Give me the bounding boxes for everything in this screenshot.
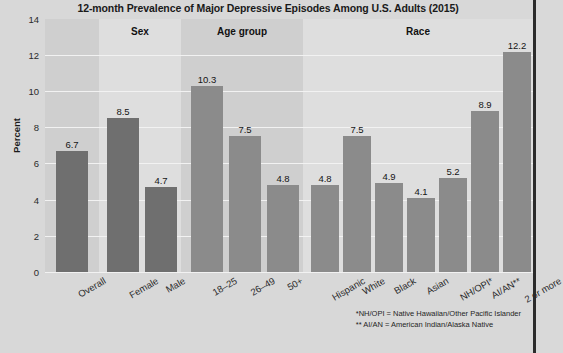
bar-value-label: 4.8 (276, 173, 289, 184)
bar-race-white[interactable]: 7.5 (343, 136, 371, 272)
ytick-label: 8 (34, 122, 39, 133)
bar-age-50-plus[interactable]: 4.8 (267, 185, 299, 272)
bar-value-label: 7.5 (350, 124, 363, 135)
bar-value-label: 7.5 (238, 124, 251, 135)
xtick-aian: AI/AN** (489, 275, 522, 301)
xtick-white: White (360, 275, 387, 297)
bar-male[interactable]: 4.7 (145, 187, 177, 272)
gridline-10: 10 (45, 91, 533, 92)
bar-female[interactable]: 8.5 (107, 118, 139, 272)
group-header-sex: Sex (99, 26, 181, 37)
bar-value-label: 6.7 (65, 139, 78, 150)
bar-race-asian[interactable]: 4.1 (407, 198, 435, 272)
ytick-label: 10 (28, 86, 39, 97)
chart-title: 12-month Prevalence of Major Depressive … (0, 2, 536, 14)
xtick-black: Black (392, 275, 418, 296)
bar-value-label: 8.9 (478, 99, 491, 110)
xtick-asian: Asian (424, 275, 450, 296)
gridline-12: 12 (45, 55, 533, 56)
bar-age-26-49[interactable]: 7.5 (229, 136, 261, 272)
xtick-age-18-25: 18–25 (211, 275, 239, 298)
bar-age-18-25[interactable]: 10.3 (191, 86, 223, 272)
xtick-nhopi: NH/OPI* (458, 275, 495, 303)
xtick-two-or-more: 2 or more (522, 275, 563, 305)
gridline-0: 0 (45, 272, 533, 273)
bar-value-label: 4.7 (154, 175, 167, 186)
xtick-overall: Overall (76, 275, 108, 300)
xtick-age-50-plus: 50+ (285, 275, 304, 293)
footnotes: *NH/OPI = Native Hawaiian/Other Pacific … (356, 308, 521, 331)
ytick-label: 2 (34, 230, 39, 241)
bar-race-aian[interactable]: 8.9 (471, 111, 499, 272)
bar-value-label: 10.3 (198, 74, 217, 85)
ytick-label: 14 (28, 13, 39, 24)
group-header-race: Race (303, 26, 533, 37)
bar-race-hispanic[interactable]: 4.8 (311, 185, 339, 272)
xtick-age-26-49: 26–49 (249, 275, 277, 298)
xtick-female: Female (127, 275, 160, 300)
bar-value-label: 4.1 (414, 186, 427, 197)
group-header-age-group: Age group (181, 26, 303, 37)
bar-race-black[interactable]: 4.9 (375, 183, 403, 272)
footnote-nhopi: *NH/OPI = Native Hawaiian/Other Pacific … (356, 308, 521, 320)
ytick-label: 12 (28, 49, 39, 60)
bar-value-label: 5.2 (446, 166, 459, 177)
y-axis-title: Percent (11, 106, 22, 166)
bar-race-nhopi[interactable]: 5.2 (439, 178, 467, 272)
gridline-14: 14 (45, 19, 533, 20)
ytick-label: 4 (34, 194, 39, 205)
plot-area: 0 2 4 6 8 10 12 14 Sex Age group Race 6.… (45, 19, 533, 272)
bar-race-two-or-more[interactable]: 12.2 (503, 52, 531, 273)
ytick-label: 0 (34, 267, 39, 278)
bar-value-label: 12.2 (508, 40, 527, 51)
bar-value-label: 8.5 (116, 106, 129, 117)
bar-value-label: 4.8 (318, 173, 331, 184)
footnote-aian: ** AI/AN = American Indian/Alaska Native (356, 319, 521, 331)
bar-value-label: 4.9 (382, 171, 395, 182)
xtick-male: Male (164, 275, 187, 295)
bar-overall[interactable]: 6.7 (56, 151, 88, 272)
ytick-label: 6 (34, 158, 39, 169)
